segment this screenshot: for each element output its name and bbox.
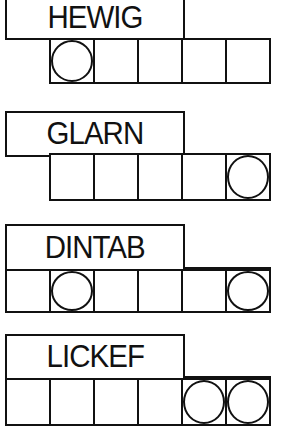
circle-marker-icon	[227, 380, 269, 424]
answer-cell-1[interactable]	[7, 380, 51, 426]
cell-extension-line	[183, 376, 271, 378]
answer-cell-2[interactable]	[51, 380, 95, 426]
circle-marker-icon	[183, 380, 225, 424]
answer-cell-6[interactable]	[227, 380, 271, 426]
scrambled-word-box: LICKEF	[5, 334, 185, 380]
answer-cells	[5, 378, 271, 426]
answer-cell-4[interactable]	[139, 380, 183, 426]
answer-cell-3[interactable]	[95, 380, 139, 426]
answer-cell-5[interactable]	[183, 380, 227, 426]
scrambled-word: LICKEF	[46, 339, 143, 375]
